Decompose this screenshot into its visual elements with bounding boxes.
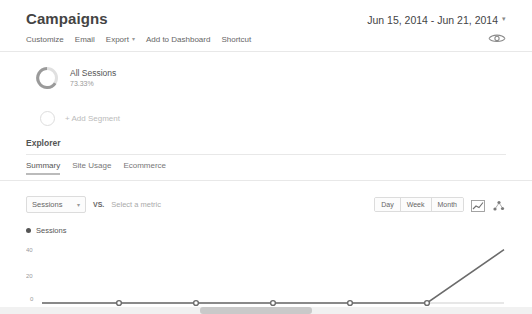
- eye-icon[interactable]: [488, 31, 506, 45]
- action-bar: Customize Email Export Add to Dashboard …: [0, 27, 532, 52]
- chevron-down-icon: ▾: [77, 201, 80, 208]
- add-segment-button[interactable]: + Add Segment: [26, 111, 506, 126]
- data-point-marker[interactable]: [271, 301, 276, 306]
- report-page: Campaigns Jun 15, 2014 - Jun 21, 2014 ▾ …: [0, 0, 532, 314]
- chart-legend: Sessions: [0, 217, 532, 235]
- tab-ecommerce[interactable]: Ecommerce: [123, 161, 166, 175]
- scatter-chart-icon[interactable]: [492, 198, 506, 210]
- segment-title: All Sessions: [70, 68, 116, 79]
- horizontal-scrollbar[interactable]: [0, 307, 532, 314]
- primary-metric-select[interactable]: Sessions ▾: [26, 196, 86, 213]
- secondary-metric-select[interactable]: Select a metric: [111, 200, 161, 209]
- legend-series-label: Sessions: [36, 226, 66, 235]
- line-chart-icon[interactable]: [471, 198, 485, 210]
- sessions-line-chart[interactable]: 20400Jun 16Jun 17Jun 18Jun 19Jun 20: [26, 237, 506, 314]
- explorer-tabs: Summary Site Usage Ecommerce: [0, 155, 532, 181]
- y-axis-tick-label: 40: [26, 247, 33, 253]
- scrollbar-thumb[interactable]: [200, 307, 312, 314]
- date-range-label: Jun 15, 2014 - Jun 21, 2014: [367, 14, 498, 26]
- series-line-sessions: [42, 250, 504, 303]
- action-add-to-dashboard[interactable]: Add to Dashboard: [146, 35, 211, 44]
- action-export[interactable]: Export: [106, 35, 135, 44]
- add-segment-label: + Add Segment: [65, 114, 120, 123]
- data-point-marker[interactable]: [194, 301, 199, 306]
- y-axis-tick-label: 0: [30, 296, 34, 302]
- granularity-month[interactable]: Month: [432, 198, 463, 211]
- data-point-marker[interactable]: [348, 301, 353, 306]
- date-range-picker[interactable]: Jun 15, 2014 - Jun 21, 2014 ▾: [367, 14, 506, 26]
- action-customize[interactable]: Customize: [26, 35, 64, 44]
- chart-canvas: 20400Jun 16Jun 17Jun 18Jun 19Jun 20: [26, 237, 506, 314]
- tab-site-usage[interactable]: Site Usage: [72, 161, 111, 175]
- primary-metric-label: Sessions: [32, 200, 62, 209]
- data-point-marker[interactable]: [425, 301, 430, 306]
- chart-controls: Day Week Month: [374, 197, 506, 212]
- segment-text: All Sessions 73.33%: [70, 68, 116, 89]
- segments-panel: All Sessions 73.33% + Add Segment: [0, 52, 532, 138]
- action-email[interactable]: Email: [75, 35, 95, 44]
- tab-summary[interactable]: Summary: [26, 161, 60, 175]
- granularity-day[interactable]: Day: [375, 198, 400, 211]
- page-header: Campaigns Jun 15, 2014 - Jun 21, 2014 ▾: [0, 0, 532, 27]
- vs-label: VS.: [93, 201, 104, 208]
- granularity-button-group: Day Week Month: [374, 197, 464, 212]
- donut-chart-icon: [34, 65, 60, 91]
- explorer-title: Explorer: [0, 138, 532, 148]
- segment-all-sessions[interactable]: All Sessions 73.33%: [26, 65, 506, 91]
- y-axis-tick-label: 20: [26, 273, 33, 279]
- legend-color-dot: [26, 228, 31, 233]
- metric-selector-row: Sessions ▾ VS. Select a metric Day Week …: [0, 181, 532, 217]
- granularity-week[interactable]: Week: [401, 198, 432, 211]
- page-title: Campaigns: [26, 10, 108, 27]
- segment-percent: 73.33%: [70, 79, 116, 89]
- empty-circle-icon: [40, 111, 55, 126]
- chevron-down-icon: ▾: [502, 15, 506, 23]
- data-point-marker[interactable]: [117, 301, 122, 306]
- action-shortcut[interactable]: Shortcut: [221, 35, 251, 44]
